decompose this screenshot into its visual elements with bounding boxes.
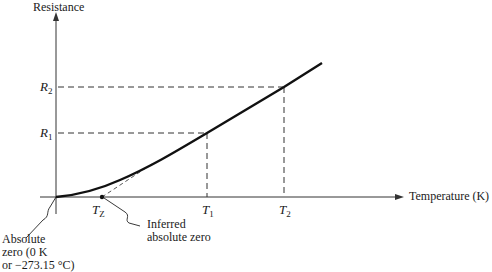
r2-label: R2 bbox=[40, 80, 52, 98]
r1-label: R1 bbox=[40, 126, 52, 144]
tz-label: TZ bbox=[92, 203, 105, 221]
inferred-zero-leader bbox=[104, 198, 140, 226]
absolute-zero-annotation: Absolute zero (0 K or −273.15 °C) bbox=[2, 233, 75, 272]
inferred-zero-annotation: Inferred absolute zero bbox=[147, 218, 211, 244]
t2-label: T2 bbox=[279, 203, 291, 221]
resistance-temperature-diagram bbox=[0, 0, 492, 272]
annotation-line: or −273.15 °C) bbox=[2, 259, 75, 272]
x-axis-arrow-icon bbox=[395, 194, 404, 200]
resistance-curve bbox=[56, 63, 322, 197]
annotation-line: absolute zero bbox=[147, 231, 211, 244]
x-axis-label: Temperature (K) bbox=[409, 190, 489, 203]
y-axis-label: Resistance bbox=[33, 1, 84, 14]
tz-point bbox=[100, 195, 104, 199]
